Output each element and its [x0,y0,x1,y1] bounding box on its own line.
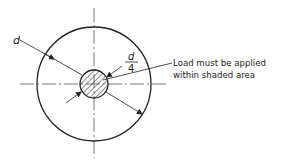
inner-diameter-label: d 4 [125,51,138,74]
outer-diameter-dimension [20,40,142,114]
annotation-leader [103,63,172,80]
annotation-line-2: within shaded area [173,70,255,80]
fraction-denominator: 4 [128,63,134,74]
outer-diameter-label: d [13,34,21,47]
fraction-numerator: d [128,51,135,62]
shaded-load-area [80,70,108,98]
load-area-diagram: d d 4 Load must be applied within shaded… [0,0,281,162]
annotation-line-1: Load must be applied [173,58,266,68]
